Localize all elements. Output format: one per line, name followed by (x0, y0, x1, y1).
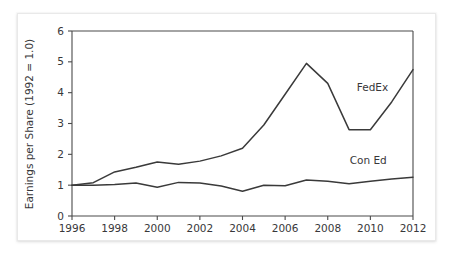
x-tick-label: 2000 (144, 222, 171, 234)
y-tick-label: 3 (57, 117, 64, 129)
y-tick-label: 6 (57, 25, 64, 37)
x-tick-label: 2006 (272, 222, 299, 234)
x-tick-label: 2012 (400, 222, 427, 234)
y-tick-label: 5 (57, 55, 64, 67)
earnings-per-share-line-chart: 0123456 19961998200020022004200620082010… (18, 14, 435, 240)
x-tick-label: 2002 (187, 222, 214, 234)
y-axis-ticks: 0123456 (57, 25, 72, 222)
y-tick-label: 1 (57, 179, 64, 191)
x-tick-label: 1998 (101, 222, 128, 234)
chart-figure-panel: 0123456 19961998200020022004200620082010… (17, 13, 436, 241)
series-label-con-ed: Con Ed (350, 154, 387, 166)
x-tick-label: 2010 (357, 222, 384, 234)
y-axis-title: Earnings per Share (1992 = 1.0) (23, 39, 35, 209)
series-label-fedex: FedEx (357, 81, 388, 93)
x-tick-label: 1996 (59, 222, 86, 234)
x-tick-label: 2004 (229, 222, 256, 234)
y-tick-label: 4 (57, 86, 64, 98)
y-tick-label: 2 (57, 148, 64, 160)
x-tick-label: 2008 (314, 222, 341, 234)
series-line-con-ed (72, 177, 413, 191)
y-tick-label: 0 (57, 210, 64, 222)
series-inline-labels: FedExCon Ed (350, 81, 389, 166)
plot-frame (72, 31, 413, 216)
x-axis-ticks: 199619982000200220042006200820102012 (59, 216, 427, 234)
